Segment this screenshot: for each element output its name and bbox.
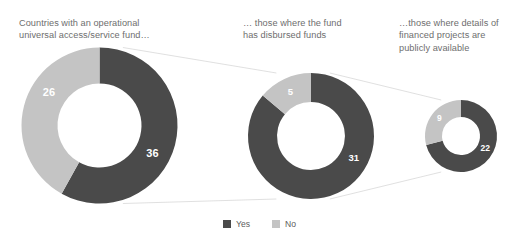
legend-swatch-yes: [223, 220, 231, 228]
legend-label-yes: Yes: [236, 219, 250, 229]
legend-item-no[interactable]: No: [272, 219, 296, 229]
donut-3-slice-no[interactable]: [425, 100, 461, 145]
donut-1-value-no: 26: [43, 86, 55, 98]
donut-chart-2: 31 5: [248, 73, 374, 199]
donut-3-value-no: 9: [437, 113, 442, 123]
connector-bottom-1: [123, 199, 276, 204]
donut-chart-1: 36 26: [22, 48, 178, 204]
donut-3-value-yes: 22: [481, 143, 491, 153]
donut-2-value-yes: 31: [349, 152, 360, 163]
chart-legend: Yes No: [0, 219, 519, 229]
legend-swatch-no: [272, 220, 280, 228]
legend-label-no: No: [285, 219, 296, 229]
legend-item-yes[interactable]: Yes: [223, 219, 250, 229]
funnel-donut-figure: Countries with an operational universal …: [0, 0, 519, 246]
donut-chart-3: 22 9: [425, 100, 497, 172]
donut-chart-layer: 36 26 31 5 22 9: [0, 0, 519, 246]
donut-1-value-yes: 36: [146, 147, 158, 159]
donut-2-value-no: 5: [288, 86, 294, 97]
